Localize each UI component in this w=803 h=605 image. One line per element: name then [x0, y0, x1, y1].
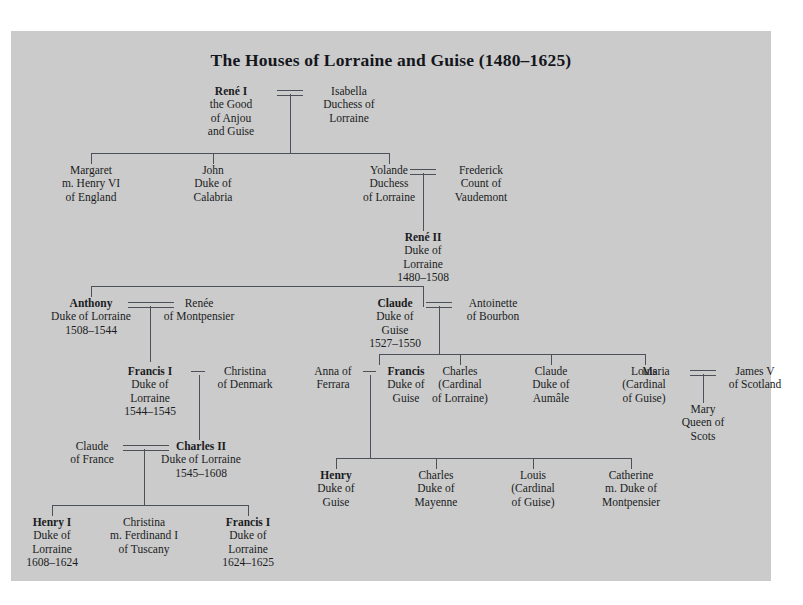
node-line: of Lorraine — [341, 191, 437, 204]
node-line: Lorraine — [377, 258, 469, 271]
node-line: Duke of — [509, 378, 593, 391]
node-line: of Lorraine) — [414, 392, 506, 405]
node-line: 1480–1508 — [377, 271, 469, 284]
node-line: Claude — [351, 297, 439, 310]
node-line: Antoinette — [448, 297, 538, 310]
node-line: of France — [50, 453, 134, 466]
node-line: Catherine — [576, 469, 686, 482]
page-title: The Houses of Lorraine and Guise (1480–1… — [11, 50, 771, 71]
node-line: John — [169, 164, 257, 177]
node-line: Anna of — [299, 365, 367, 378]
sibling-stem — [91, 286, 92, 297]
node-line: René II — [377, 231, 469, 244]
node-christina-tuscany: Christina m. Ferdinand I of Tuscany — [89, 516, 199, 556]
node-anthony: Anthony Duke of Lorraine 1508–1544 — [36, 297, 146, 337]
sibling-stem — [460, 354, 461, 365]
node-line: of Montpensier — [149, 310, 249, 323]
node-louis-cardinal-guise-2: Louis (Cardinal of Guise) — [490, 469, 576, 509]
node-margaret: Margaret m. Henry VI of England — [47, 164, 135, 204]
marriage-link — [191, 371, 205, 372]
node-line: Guise — [373, 392, 439, 405]
sibling-stem — [389, 153, 390, 164]
node-line: Yolande — [341, 164, 437, 177]
node-line: Mayenne — [393, 496, 479, 509]
node-line: Charles — [393, 469, 479, 482]
node-line: Duke of — [106, 378, 194, 391]
node-john-calabria: John Duke of Calabria — [169, 164, 257, 204]
node-line: Francis — [373, 365, 439, 378]
node-line: Duke of Lorraine — [144, 453, 258, 466]
node-line: Lorraine — [204, 543, 292, 556]
node-line: Louis — [601, 365, 687, 378]
node-mary-scots: Mary Queen of Scots — [659, 403, 747, 443]
sibling-stem — [379, 354, 380, 365]
sibling-stem — [631, 458, 632, 469]
node-line: of Guise) — [490, 496, 576, 509]
node-isabella: Isabella Duchess of Lorraine — [305, 85, 393, 125]
marriage-link — [690, 370, 716, 376]
node-christina-denmark: Christina of Denmark — [201, 365, 289, 392]
node-james5: James V of Scotland — [711, 365, 799, 392]
sibling-stem — [248, 505, 249, 516]
node-line: Anthony — [36, 297, 146, 310]
sibling-stem — [551, 354, 552, 365]
sibling-stem — [336, 458, 337, 469]
node-line: Isabella — [305, 85, 393, 98]
descent-line — [370, 375, 371, 458]
node-line: the Good — [187, 98, 275, 111]
node-line: Duke of — [377, 244, 469, 257]
marriage-link — [363, 371, 376, 372]
node-line: Duke of — [293, 482, 379, 495]
node-line: Duke of Lorraine — [36, 310, 146, 323]
descent-line — [423, 173, 424, 231]
node-claude-france: Claude of France — [50, 440, 134, 467]
node-line: Scots — [659, 430, 747, 443]
node-francis-guise: Francis Duke of Guise — [373, 365, 439, 405]
sibling-bar — [336, 458, 631, 459]
node-line: 1545–1608 — [144, 467, 258, 480]
marriage-link — [426, 302, 452, 308]
node-line: (Cardinal — [490, 482, 576, 495]
node-francis1-1624: Francis I Duke of Lorraine 1624–1625 — [204, 516, 292, 569]
node-line: Francis I — [106, 365, 194, 378]
node-line: Queen of — [659, 416, 747, 429]
node-rene1: René I the Good of Anjou and Guise — [187, 85, 275, 138]
node-line: Calabria — [169, 191, 257, 204]
sibling-bar — [91, 153, 389, 154]
node-line: m. Ferdinand I — [89, 529, 199, 542]
marriage-link — [410, 169, 436, 175]
node-line: 1508–1544 — [36, 324, 146, 337]
node-line: and Guise — [187, 125, 275, 138]
node-maria: Maria — [613, 365, 699, 378]
node-yolande: Yolande Duchess of Lorraine — [341, 164, 437, 204]
sibling-bar — [379, 354, 645, 355]
descent-line — [703, 374, 704, 403]
node-louis-cardinal-guise: Louis (Cardinal of Guise) — [601, 365, 687, 405]
marriage-link — [123, 445, 169, 451]
node-line: Duke of — [373, 378, 439, 391]
node-line: Duke of — [351, 310, 439, 323]
node-line: Louis — [490, 469, 576, 482]
node-line: Duchess of — [305, 98, 393, 111]
node-line: Henry — [293, 469, 379, 482]
node-line: Charles II — [144, 440, 258, 453]
sibling-stem — [533, 458, 534, 469]
node-line: Lorraine — [8, 543, 96, 556]
descent-line — [439, 306, 440, 354]
node-line: Renée — [149, 297, 249, 310]
sibling-bar — [52, 505, 248, 506]
node-line: Duchess — [341, 177, 437, 190]
node-line: m. Duke of — [576, 482, 686, 495]
node-line: Mary — [659, 403, 747, 416]
sibling-stem — [436, 458, 437, 469]
node-renee: Renée of Montpensier — [149, 297, 249, 324]
node-line: 1624–1625 — [204, 556, 292, 569]
node-line: Francis I — [204, 516, 292, 529]
node-line: Montpensier — [576, 496, 686, 509]
node-line: Christina — [201, 365, 289, 378]
node-line: of Tuscany — [89, 543, 199, 556]
node-line: James V — [711, 365, 799, 378]
node-line: m. Henry VI — [47, 177, 135, 190]
node-line: Guise — [351, 324, 439, 337]
node-claude-guise: Claude Duke of Guise 1527–1550 — [351, 297, 439, 350]
